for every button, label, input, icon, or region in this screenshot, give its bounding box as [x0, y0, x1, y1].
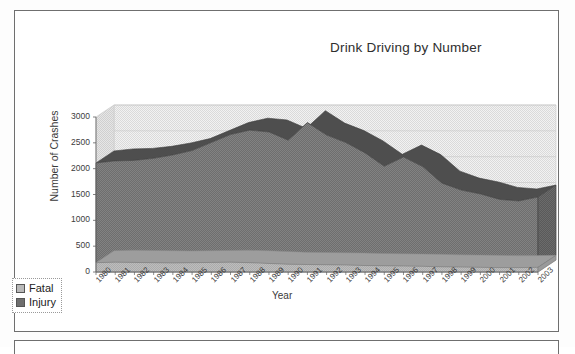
y-axis-tick-label: 1000 [56, 214, 90, 224]
injury-swatch-icon [16, 298, 25, 307]
y-axis-tick-label: 3000 [56, 111, 90, 121]
y-axis-tick-label: 2000 [56, 163, 90, 173]
fatal-swatch-icon [16, 284, 25, 293]
chart-legend: Fatal Injury [12, 278, 62, 313]
legend-item-injury: Injury [16, 295, 56, 309]
legend-label-fatal: Fatal [29, 282, 53, 294]
y-axis-tick-label: 500 [56, 240, 90, 250]
legend-label-injury: Injury [29, 296, 56, 308]
y-axis-tick-label: 1500 [56, 189, 90, 199]
y-axis-tick-label: 2500 [56, 137, 90, 147]
y-axis-tick-label: 0 [56, 266, 90, 276]
legend-item-fatal: Fatal [16, 281, 56, 295]
